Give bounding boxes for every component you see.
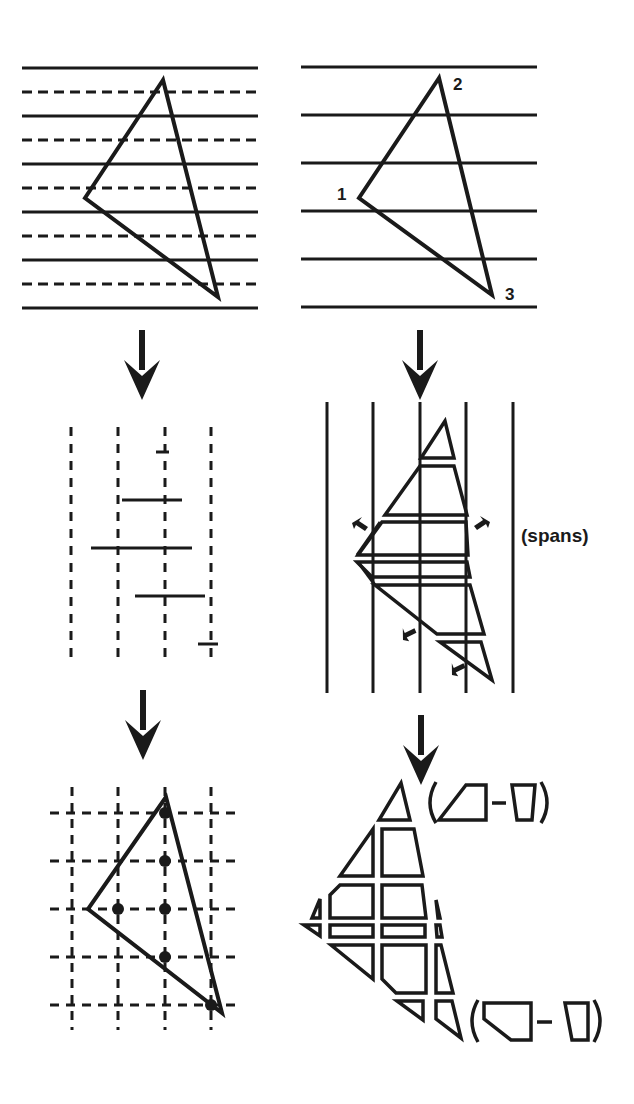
sample-dot [112, 903, 124, 915]
triangle [359, 78, 492, 295]
sample-dot [159, 855, 171, 867]
vertex-label-1: 1 [337, 185, 346, 204]
sample-dot [159, 951, 171, 963]
span-segments [91, 452, 218, 644]
dashed-columns [71, 427, 211, 665]
vertex-label-3: 3 [505, 285, 514, 304]
dashed-scanlines [22, 92, 258, 284]
sample-dot [205, 999, 217, 1011]
rasterization-diagram: 1 2 3 [0, 0, 634, 1104]
left-bottom-panel [50, 787, 237, 1030]
formula-bottom [472, 1000, 600, 1042]
right-middle-panel [327, 402, 513, 693]
vertex-label-2: 2 [453, 75, 462, 94]
spans-label: (spans) [521, 525, 589, 546]
left-middle-panel [71, 427, 218, 665]
down-arrow-icon [125, 690, 161, 760]
down-arrow-icon [402, 330, 438, 400]
sample-dot [159, 807, 171, 819]
down-arrow-icon [124, 330, 160, 400]
vertical-columns [327, 402, 513, 693]
left-top-panel [22, 68, 258, 308]
down-arrow-icon [403, 715, 439, 785]
triangle [88, 797, 222, 1013]
span-pointer-icon [398, 623, 418, 644]
dashed-grid [50, 787, 237, 1030]
span-fragments [357, 421, 492, 680]
formula-top [430, 782, 547, 823]
span-pointer-icon [474, 516, 490, 530]
sample-dot [159, 903, 171, 915]
span-pointer-icon [352, 517, 368, 531]
